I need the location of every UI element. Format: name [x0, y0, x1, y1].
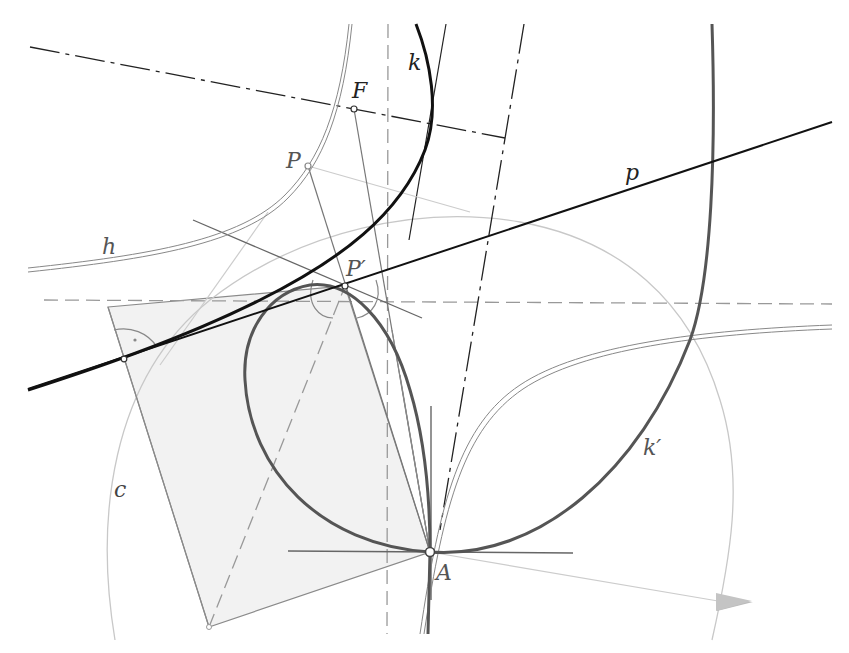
point-P — [305, 163, 311, 169]
dashdot-axis-line — [440, 24, 524, 530]
label-p: p — [625, 160, 639, 185]
label-F: F — [351, 78, 368, 103]
hyperbola-h-upper-branch — [28, 24, 352, 272]
point-A — [426, 548, 435, 557]
label-A: A — [434, 560, 452, 585]
arrowhead-fill-icon — [716, 593, 752, 611]
label-P-prime: P′ — [345, 256, 366, 281]
radius-arrow-line — [430, 552, 718, 601]
point-square-bottom — [207, 625, 212, 630]
label-k-prime: k′ — [643, 435, 661, 460]
right-angle-dot — [133, 338, 136, 341]
hyperbola-h-lower-branch — [420, 325, 832, 634]
label-k: k — [408, 50, 421, 75]
point-right-angle-vertex — [121, 356, 127, 362]
label-h: h — [102, 234, 116, 259]
label-P: P — [285, 148, 302, 173]
diagram-canvas: F k P p h P′ c k′ A — [0, 0, 849, 653]
light-line-from-P — [308, 166, 470, 212]
geometry-diagram: F k P p h P′ c k′ A — [0, 0, 849, 653]
point-P-prime — [342, 283, 348, 289]
label-c: c — [114, 477, 126, 502]
point-F — [351, 106, 357, 112]
shaded-square — [108, 286, 430, 627]
